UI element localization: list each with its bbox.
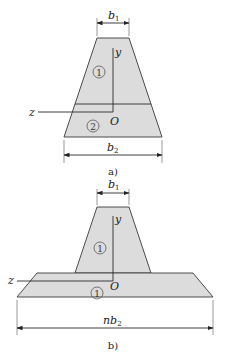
y-axis-label: y [114,46,122,59]
svg-text:nb2: nb2 [103,314,122,328]
nb2-dimension: nb2 [17,300,213,335]
caption-a: a) [108,166,118,177]
svg-text:b1: b1 [108,178,120,192]
b1-dimension: b1 [97,178,129,205]
svg-text:b2: b2 [107,141,119,155]
caption-b: b) [108,340,118,351]
svg-text:b1: b1 [108,9,120,23]
y-axis-label: y [114,213,122,226]
figure-a: y z O 1 2 b1 b2 a [28,9,162,177]
b1-dimension: b1 [97,9,129,36]
b2-dimension: b2 [64,140,162,163]
z-axis-label: z [28,106,35,119]
svg-text:1: 1 [96,68,102,78]
z-axis-label: z [7,274,14,287]
svg-text:2: 2 [90,122,96,132]
origin-label: O [110,115,119,128]
svg-text:1: 1 [94,289,100,299]
svg-text:1: 1 [97,244,103,254]
origin-label: O [110,280,119,293]
diagram-canvas: y z O 1 2 b1 b2 a [0,0,226,361]
figure-b: y z O 1 1 b1 nb2 [7,178,213,351]
